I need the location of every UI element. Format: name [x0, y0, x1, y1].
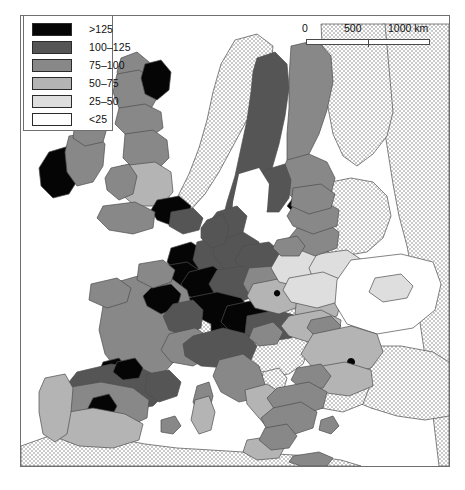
region-balearics — [161, 416, 181, 434]
legend-swatch-5 — [32, 113, 72, 126]
legend-row-1: 100–125 — [32, 40, 72, 55]
legend-row-5: <25 — [32, 112, 72, 127]
region-czechia-dot — [274, 290, 280, 296]
region-finland-north — [287, 40, 333, 168]
legend-swatch-0 — [32, 23, 72, 36]
legend-label-0: >125 — [89, 23, 113, 36]
legend-row-2: 75–100 — [32, 58, 72, 73]
legend: >125 100–125 75–100 50–75 25–50 <25 — [23, 15, 113, 131]
legend-swatch-1 — [32, 41, 72, 54]
region-wales — [105, 164, 137, 200]
scale-tick-0: 0 — [302, 22, 308, 34]
legend-label-5: <25 — [89, 113, 107, 126]
scale-tick-500: 500 — [344, 22, 362, 34]
legend-row-4: 25–50 — [32, 94, 72, 109]
region-greece-islands — [319, 416, 339, 434]
scale-tick-1000: 1000 km — [388, 22, 428, 34]
legend-label-3: 50–75 — [89, 77, 119, 90]
scale-bar: 0 500 1000 km — [302, 22, 434, 48]
legend-swatch-2 — [32, 59, 72, 72]
region-crete — [289, 452, 333, 466]
region-scotland-east — [141, 60, 171, 100]
scale-bar-midtick — [368, 39, 369, 47]
legend-row-0: >125 — [32, 22, 72, 37]
legend-label-4: 25–50 — [89, 95, 119, 108]
region-sardinia — [191, 396, 215, 434]
legend-swatch-4 — [32, 95, 72, 108]
legend-row-3: 50–75 — [32, 76, 72, 91]
region-england-southwest — [97, 202, 155, 234]
legend-label-1: 100–125 — [89, 41, 131, 54]
legend-label-2: 75–100 — [89, 59, 125, 72]
map-figure: >125 100–125 75–100 50–75 25–50 <25 0 50… — [0, 0, 465, 490]
region-england-southeast-2 — [169, 208, 203, 234]
legend-swatch-3 — [32, 77, 72, 90]
